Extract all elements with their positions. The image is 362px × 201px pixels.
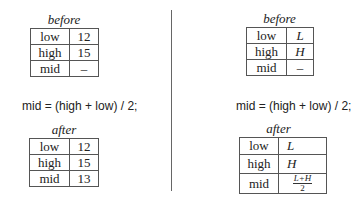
row-value: H: [287, 44, 314, 60]
fraction: L+H 2: [293, 174, 313, 193]
panel-divider: [171, 10, 172, 191]
row-label: high: [240, 155, 279, 174]
table-row: high H: [247, 44, 314, 60]
row-value: –: [70, 61, 99, 77]
row-value: L: [287, 28, 314, 44]
table-row: mid 13: [30, 171, 99, 187]
row-value: 15: [70, 155, 99, 171]
row-label: mid: [240, 174, 279, 194]
left-before-caption: before: [30, 13, 98, 27]
row-value: 12: [70, 29, 99, 45]
fraction-denominator: 2: [293, 184, 313, 193]
left-after-table: low 12 high 15 mid 13: [29, 138, 99, 187]
row-label: high: [247, 44, 287, 60]
row-label: low: [31, 29, 70, 45]
row-label: high: [31, 45, 70, 61]
row-value: 12: [70, 139, 99, 155]
table-row: mid –: [31, 61, 99, 77]
right-formula: mid = (high + low) / 2;: [236, 99, 351, 113]
row-value: 15: [70, 45, 99, 61]
row-label: mid: [247, 60, 287, 76]
table-row: high H: [240, 155, 327, 174]
left-after-caption: after: [30, 123, 98, 137]
right-after-table: low L high H mid L+H 2: [239, 137, 327, 194]
table-row: high 15: [30, 155, 99, 171]
row-value: 13: [70, 171, 99, 187]
row-label: low: [247, 28, 287, 44]
row-label: low: [240, 138, 279, 155]
table-row: high 15: [31, 45, 99, 61]
right-after-caption: after: [239, 122, 318, 136]
table-row: low 12: [30, 139, 99, 155]
row-label: high: [30, 155, 70, 171]
right-before-caption: before: [246, 12, 313, 26]
table-row: low L: [240, 138, 327, 155]
table-row: mid L+H 2: [240, 174, 327, 194]
table-row: low 12: [31, 29, 99, 45]
row-value: –: [287, 60, 314, 76]
row-label: low: [30, 139, 70, 155]
row-value: L: [279, 138, 327, 155]
table-row: low L: [247, 28, 314, 44]
left-before-table: low 12 high 15 mid –: [30, 28, 99, 77]
table-row: mid –: [247, 60, 314, 76]
left-formula: mid = (high + low) / 2;: [22, 99, 137, 113]
row-value: H: [279, 155, 327, 174]
row-label: mid: [30, 171, 70, 187]
row-value-fraction: L+H 2: [279, 174, 327, 194]
row-label: mid: [31, 61, 70, 77]
right-before-table: low L high H mid –: [246, 27, 314, 76]
